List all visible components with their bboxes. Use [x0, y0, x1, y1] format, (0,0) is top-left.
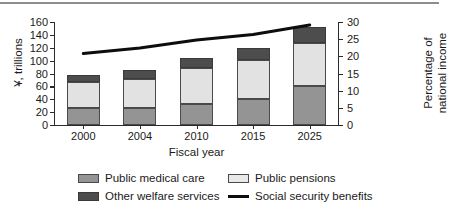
y-tick-right-20	[338, 56, 343, 57]
y-axis-right-title-line1: Percentage of	[422, 28, 435, 118]
social-security-benefits-line	[55, 22, 338, 125]
y-tick-left-0	[50, 125, 55, 126]
top-rule	[0, 2, 439, 4]
chart-legend: Public medical carePublic pensionsOther …	[78, 172, 378, 203]
x-tick-2000	[83, 125, 84, 129]
y-tick-label-right-20: 20	[347, 51, 367, 62]
legend-swatch-pensions-icon	[228, 174, 249, 183]
y-tick-right-5	[338, 108, 343, 109]
y-tick-label-right-15: 15	[347, 68, 367, 79]
y-tick-label-right-10: 10	[347, 85, 367, 96]
x-tick-label-2010: 2010	[184, 130, 208, 142]
legend-item-pensions: Public pensions	[228, 172, 378, 185]
y-tick-label-left-120: 120	[22, 42, 48, 53]
y-tick-label-right-5: 5	[347, 102, 367, 113]
legend-item-medical: Public medical care	[78, 172, 228, 185]
y-tick-label-right-25: 25	[347, 34, 367, 45]
y-tick-label-left-60: 60	[22, 81, 48, 92]
y-tick-label-left-160: 160	[22, 17, 48, 28]
y-tick-right-25	[338, 39, 343, 40]
y-tick-label-left-20: 20	[22, 107, 48, 118]
y-tick-label-left-40: 40	[22, 94, 48, 105]
legend-label: Public medical care	[105, 172, 205, 185]
y-axis-right-title-line2: national income	[436, 18, 449, 128]
y-tick-label-left-80: 80	[22, 68, 48, 79]
x-tick-2010	[197, 125, 198, 129]
legend-label: Public pensions	[255, 172, 336, 185]
legend-swatch-medical-icon	[78, 174, 99, 183]
x-axis-title: Fiscal year	[55, 146, 338, 159]
y-tick-label-left-100: 100	[22, 55, 48, 66]
legend-label: Social security benefits	[255, 190, 373, 203]
x-tick-label-2015: 2015	[241, 130, 265, 142]
x-tick-label-2004: 2004	[128, 130, 152, 142]
x-tick-2025	[310, 125, 311, 129]
x-tick-label-2000: 2000	[71, 130, 95, 142]
y-tick-right-10	[338, 91, 343, 92]
y-tick-right-15	[338, 74, 343, 75]
y-tick-right-30	[338, 22, 343, 23]
x-tick-label-2025: 2025	[297, 130, 321, 142]
legend-item-other: Other welfare services	[78, 190, 228, 203]
legend-swatch-other-icon	[78, 192, 99, 201]
y-tick-right-0	[338, 125, 343, 126]
plot-area: 020406080100120140160 051015202530 20002…	[55, 22, 338, 125]
y-tick-label-left-0: 0	[22, 120, 48, 131]
y-tick-label-left-140: 140	[22, 29, 48, 40]
legend-item-line: Social security benefits	[228, 190, 378, 203]
legend-label: Other welfare services	[105, 190, 219, 203]
y-tick-label-right-0: 0	[347, 120, 367, 131]
x-tick-2004	[140, 125, 141, 129]
x-tick-2015	[253, 125, 254, 129]
legend-swatch-line-icon	[228, 192, 249, 201]
y-axis-left-title: ¥, trillions	[12, 25, 25, 101]
y-tick-label-right-30: 30	[347, 17, 367, 28]
